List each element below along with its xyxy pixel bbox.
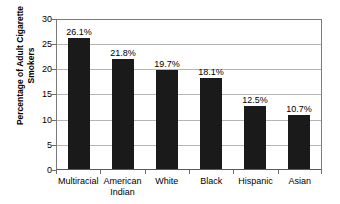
y-axis-title-line-1: Percentage of Adult Cigarette (15, 0, 26, 146)
x-tick-mark-1 (100, 170, 101, 174)
y-tick-label-25: 25 (32, 40, 52, 49)
y-tick-label-10: 10 (32, 116, 52, 125)
x-label-multiracial: Multiracial (56, 176, 100, 197)
x-tick-mark-3 (189, 170, 190, 174)
x-label-asian-line-1: Asian (278, 176, 322, 187)
bar-value-label-black: 18.1% (198, 67, 224, 77)
x-axis-category-labels: Multiracial American Indian White Black … (56, 176, 322, 197)
y-tick-label-0: 0 (32, 166, 52, 175)
x-label-white-line-1: White (145, 176, 189, 187)
bar-slot-black: 18.1% (189, 20, 233, 169)
x-label-black: Black (189, 176, 233, 197)
x-label-multiracial-line-1: Multiracial (56, 176, 100, 187)
x-label-american-indian-line-1: American (100, 176, 144, 187)
bar-slot-white: 19.7% (145, 20, 189, 169)
x-label-black-line-1: Black (189, 176, 233, 187)
y-tick-label-30: 30 (32, 15, 52, 24)
bar-series: 26.1% 21.8% 19.7% 18.1% 12.5% (57, 20, 321, 169)
x-tick-mark-2 (145, 170, 146, 174)
bar-black[interactable]: 18.1% (200, 78, 222, 169)
y-axis-tick-labels: 30 25 20 15 10 5 0 (30, 0, 52, 204)
bar-chart: Percentage of Adult Cigarette Smokers 30… (0, 0, 340, 204)
x-axis-tick-marks (56, 170, 322, 175)
x-label-hispanic: Hispanic (233, 176, 277, 197)
bar-value-label-asian: 10.7% (286, 104, 312, 114)
bar-multiracial[interactable]: 26.1% (68, 38, 90, 169)
x-label-asian: Asian (278, 176, 322, 197)
y-tick-label-20: 20 (32, 65, 52, 74)
x-label-american-indian-line-2: Indian (100, 187, 144, 198)
bar-slot-american-indian: 21.8% (101, 20, 145, 169)
bar-value-label-hispanic: 12.5% (242, 95, 268, 105)
x-label-hispanic-line-1: Hispanic (233, 176, 277, 187)
bar-slot-asian: 10.7% (277, 20, 321, 169)
bar-slot-multiracial: 26.1% (57, 20, 101, 169)
bar-white[interactable]: 19.7% (156, 70, 178, 169)
x-tick-mark-5 (278, 170, 279, 174)
bar-value-label-american-indian: 21.8% (110, 48, 136, 58)
x-label-white: White (145, 176, 189, 197)
bar-value-label-white: 19.7% (154, 59, 180, 69)
x-label-american-indian: American Indian (100, 176, 144, 197)
bar-asian[interactable]: 10.7% (288, 115, 310, 169)
plot-area: 26.1% 21.8% 19.7% 18.1% 12.5% (56, 19, 322, 170)
x-tick-mark-6 (321, 170, 322, 174)
x-tick-mark-0 (56, 170, 57, 174)
bar-american-indian[interactable]: 21.8% (112, 59, 134, 169)
x-tick-mark-4 (233, 170, 234, 174)
bar-value-label-multiracial: 26.1% (66, 27, 92, 37)
bar-hispanic[interactable]: 12.5% (244, 106, 266, 169)
y-tick-label-15: 15 (32, 90, 52, 99)
bar-slot-hispanic: 12.5% (233, 20, 277, 169)
y-tick-label-5: 5 (32, 141, 52, 150)
